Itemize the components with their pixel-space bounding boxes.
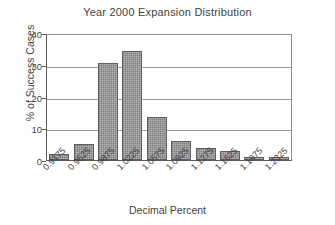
x-axis-tick-labels: 0.91750.95250.98751.02251.05751.09251.12…: [46, 163, 292, 203]
bar-slot: [120, 35, 144, 160]
y-axis-tick-label: 40: [31, 29, 42, 40]
x-axis-tick-slot: 0.9875: [95, 163, 120, 203]
bar-slot: [267, 35, 291, 160]
y-axis-tick-label: 10: [31, 124, 42, 135]
plot-area: [46, 34, 292, 161]
y-axis-tick-mark: [42, 66, 46, 67]
bar: [122, 51, 142, 160]
y-axis-tick-label: 20: [31, 92, 42, 103]
x-axis-tick-slot: 0.9525: [71, 163, 96, 203]
x-axis-title: Decimal Percent: [0, 204, 335, 216]
bar-slot: [145, 35, 169, 160]
chart-container: Year 2000 Expansion Distribution % of Su…: [0, 0, 335, 225]
bar-slot: [193, 35, 217, 160]
y-axis-tick-mark: [42, 129, 46, 130]
bar-series: [47, 35, 291, 160]
bar-slot: [218, 35, 242, 160]
x-axis-tick-slot: 1.0225: [120, 163, 145, 203]
y-axis-tick-mark: [42, 161, 46, 162]
x-axis-tick-slot: 1.2325: [267, 163, 292, 203]
y-axis-tick-mark: [42, 34, 46, 35]
bar-slot: [71, 35, 95, 160]
y-axis-tick-mark: [42, 98, 46, 99]
x-axis-tick-slot: 1.1975: [243, 163, 268, 203]
x-axis-tick-slot: 1.0925: [169, 163, 194, 203]
y-axis-tick-labels: 010203040: [0, 34, 42, 161]
x-axis-tick-slot: 1.0575: [144, 163, 169, 203]
bar-slot: [96, 35, 120, 160]
y-axis-tick-label: 30: [31, 60, 42, 71]
x-axis-tick-slot: 1.1625: [218, 163, 243, 203]
bar-slot: [242, 35, 266, 160]
bar-slot: [169, 35, 193, 160]
bar-slot: [47, 35, 71, 160]
x-axis-tick-slot: 1.1275: [194, 163, 219, 203]
x-axis-tick-slot: 0.9175: [46, 163, 71, 203]
chart-title: Year 2000 Expansion Distribution: [0, 6, 335, 18]
